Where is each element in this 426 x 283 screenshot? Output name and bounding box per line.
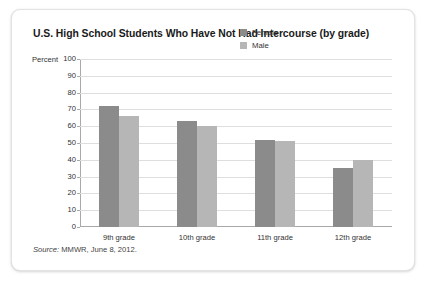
- chart-legend: FemaleMale: [240, 26, 278, 52]
- x-axis-tick-label: 11th grade: [236, 233, 314, 242]
- x-axis-tick-label: 9th grade: [80, 233, 158, 242]
- y-axis-tick-label: 20: [68, 190, 76, 198]
- bar-group: 10th grade: [158, 59, 236, 227]
- source-value: MMWR, June 8, 2012.: [59, 245, 137, 254]
- y-axis-tick-mark: [77, 227, 80, 228]
- y-axis-tick-label: 100: [63, 55, 76, 63]
- y-axis-tick-label: 30: [68, 173, 76, 181]
- legend-label: Female: [252, 28, 278, 37]
- bar-group: 9th grade: [80, 59, 158, 227]
- bar-female-12th-grade: [333, 168, 353, 227]
- bar-male-10th-grade: [197, 126, 217, 227]
- page-title: U.S. High School Students Who Have Not H…: [33, 28, 403, 39]
- bar-female-9th-grade: [99, 106, 119, 227]
- x-axis-tick-label: 10th grade: [158, 233, 236, 242]
- bar-group: 12th grade: [314, 59, 392, 227]
- y-axis-tick-label: 70: [68, 106, 76, 114]
- legend-swatch-male: [240, 42, 247, 49]
- y-axis-title: Percent: [32, 55, 58, 64]
- legend-item: Male: [240, 39, 278, 52]
- source-note: Source: MMWR, June 8, 2012.: [33, 245, 137, 254]
- bar-female-10th-grade: [177, 121, 197, 227]
- y-axis-tick-label: 50: [68, 139, 76, 147]
- bar-group: 11th grade: [236, 59, 314, 227]
- plot-wrapper: 1009080706050403020100 9th grade10th gra…: [80, 59, 392, 227]
- legend-swatch-female: [240, 29, 247, 36]
- legend-label: Male: [252, 41, 269, 50]
- chart-card: U.S. High School Students Who Have Not H…: [11, 9, 415, 271]
- bar-male-12th-grade: [353, 160, 373, 227]
- source-label: Source:: [33, 245, 59, 254]
- y-axis-tick-label: 80: [68, 89, 76, 97]
- legend-item: Female: [240, 26, 278, 39]
- bar-male-9th-grade: [119, 116, 139, 227]
- y-axis-tick-label: 90: [68, 72, 76, 80]
- bar-male-11th-grade: [275, 141, 295, 227]
- y-axis-tick-label: 60: [68, 122, 76, 130]
- bar-female-11th-grade: [255, 140, 275, 227]
- y-axis-tick-label: 0: [72, 223, 76, 231]
- x-axis-tick-label: 12th grade: [314, 233, 392, 242]
- y-axis-tick-label: 10: [68, 206, 76, 214]
- y-axis-tick-label: 40: [68, 156, 76, 164]
